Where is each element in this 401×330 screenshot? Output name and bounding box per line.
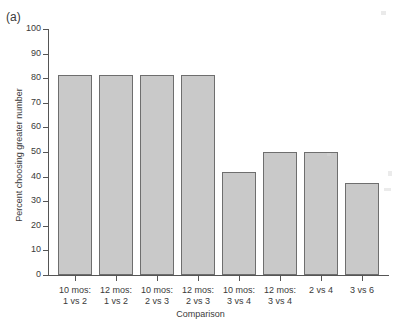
bar xyxy=(99,75,133,275)
bar xyxy=(263,152,297,275)
y-tick-mark xyxy=(43,201,48,202)
x-tick-mark xyxy=(198,276,199,281)
figure-panel-a: (a) Percent choosing greater number 0102… xyxy=(0,0,401,330)
y-tick-label: 10 xyxy=(12,245,41,254)
y-axis-line xyxy=(48,29,49,276)
y-tick-label: 0 xyxy=(12,270,41,279)
x-tick-mark xyxy=(116,276,117,281)
scan-artifact xyxy=(327,153,331,156)
y-tick-label: 50 xyxy=(12,147,41,156)
y-tick-mark xyxy=(43,127,48,128)
y-tick-label-text: 70 xyxy=(15,98,41,107)
y-tick-label: 60 xyxy=(12,122,41,131)
x-tick-mark xyxy=(321,276,322,281)
y-tick-mark xyxy=(43,78,48,79)
y-tick-label-text: 10 xyxy=(15,245,41,254)
x-tick-mark xyxy=(75,276,76,281)
x-axis-title: Comparison xyxy=(0,309,401,319)
bar xyxy=(140,75,174,275)
bar xyxy=(222,172,256,275)
scan-artifact xyxy=(381,11,386,15)
y-tick-mark xyxy=(43,177,48,178)
y-tick-label: 30 xyxy=(12,196,41,205)
y-tick-mark xyxy=(43,103,48,104)
y-tick-label: 70 xyxy=(12,98,41,107)
plot-area: 0102030405060708090100 10 mos:1 vs 212 m… xyxy=(0,0,401,330)
y-tick-mark xyxy=(43,152,48,153)
y-tick-label: 100 xyxy=(12,24,41,33)
y-tick-label-text: 30 xyxy=(15,196,41,205)
y-tick-mark xyxy=(43,250,48,251)
bar xyxy=(58,75,92,275)
scan-artifact xyxy=(388,171,392,176)
x-tick-mark xyxy=(157,276,158,281)
scan-artifact xyxy=(384,188,391,191)
y-tick-label-text: 40 xyxy=(15,172,41,181)
y-tick-mark xyxy=(43,54,48,55)
y-tick-label-text: 50 xyxy=(15,147,41,156)
bar xyxy=(345,183,379,275)
y-tick-mark xyxy=(43,226,48,227)
y-tick-label-text: 90 xyxy=(15,49,41,58)
y-tick-mark xyxy=(43,275,48,276)
y-tick-label-text: 100 xyxy=(15,24,41,33)
y-tick-label: 80 xyxy=(12,73,41,82)
y-tick-label: 40 xyxy=(12,172,41,181)
y-tick-label-text: 80 xyxy=(15,73,41,82)
bar xyxy=(181,75,215,275)
x-tick-mark xyxy=(239,276,240,281)
bar xyxy=(304,152,338,275)
y-tick-mark xyxy=(43,29,48,30)
x-tick-mark xyxy=(280,276,281,281)
y-tick-label: 20 xyxy=(12,221,41,230)
y-tick-label-text: 20 xyxy=(15,221,41,230)
x-tick-label-line: 3 vs 4 xyxy=(252,296,308,307)
y-tick-label: 90 xyxy=(12,49,41,58)
x-tick-label: 3 vs 6 xyxy=(334,285,390,296)
x-axis-line xyxy=(48,275,389,276)
y-tick-label-text: 60 xyxy=(15,122,41,131)
x-tick-label-line: 3 vs 6 xyxy=(334,285,390,296)
y-tick-label-text: 0 xyxy=(15,270,41,279)
x-tick-mark xyxy=(362,276,363,281)
